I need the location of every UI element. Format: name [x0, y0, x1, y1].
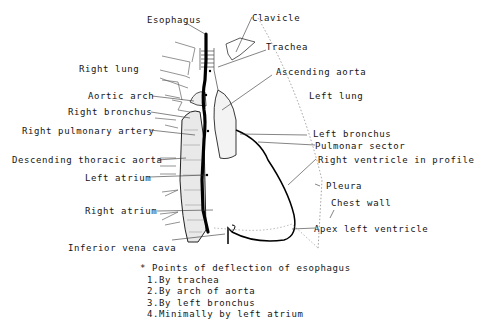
legend-title: * Points of deflection of esophagus	[140, 263, 351, 275]
legend: * Points of deflection of esophagus 1.By…	[140, 263, 351, 320]
label-ascending-aorta: Ascending aorta	[276, 67, 366, 77]
label-left-lung: Left lung	[309, 91, 363, 101]
label-clavicle: Clavicle	[252, 13, 300, 23]
label-left-bronchus: Left bronchus	[313, 129, 391, 139]
label-esophagus: Esophagus	[147, 15, 201, 25]
legend-item: 4.Minimally by left atrium	[147, 309, 351, 320]
label-pleura: Pleura	[326, 181, 362, 191]
legend-item: 3.By left bronchus	[147, 298, 351, 310]
label-pulmonar-sector: Pulmonar sector	[315, 141, 405, 151]
label-right-ventricle-in-profile: Right ventricle in profile	[318, 155, 474, 165]
label-trachea: Trachea	[266, 42, 308, 52]
clavicle-shape	[226, 38, 255, 60]
label-right-pulmonary-artery: Right pulmonary artery	[22, 126, 154, 136]
label-apex-left-ventricle: Apex left ventricle	[314, 224, 428, 234]
label-descending-thoracic-aorta: Descending thoracic aorta	[12, 155, 162, 165]
label-aortic-arch: Aortic arch	[88, 91, 154, 101]
heart-outline	[228, 130, 295, 244]
label-inferior-vena-cava: Inferior vena cava	[68, 243, 176, 253]
legend-item: 2.By arch of aorta	[147, 286, 351, 298]
diaphragm-line	[214, 224, 318, 248]
legend-item: 1.By trachea	[147, 275, 351, 287]
label-right-atrium: Right atrium	[85, 206, 157, 216]
label-right-bronchus: Right bronchus	[68, 107, 152, 117]
label-right-lung: Right lung	[79, 64, 139, 74]
ascending-aorta-shape	[214, 90, 236, 159]
trachea	[200, 48, 218, 90]
label-left-atrium: Left atrium	[85, 173, 151, 183]
label-chest-wall: Chest wall	[331, 198, 391, 208]
